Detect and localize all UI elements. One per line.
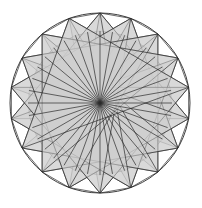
- figure-container: [0, 0, 202, 208]
- star-mandala-figure: [0, 0, 202, 208]
